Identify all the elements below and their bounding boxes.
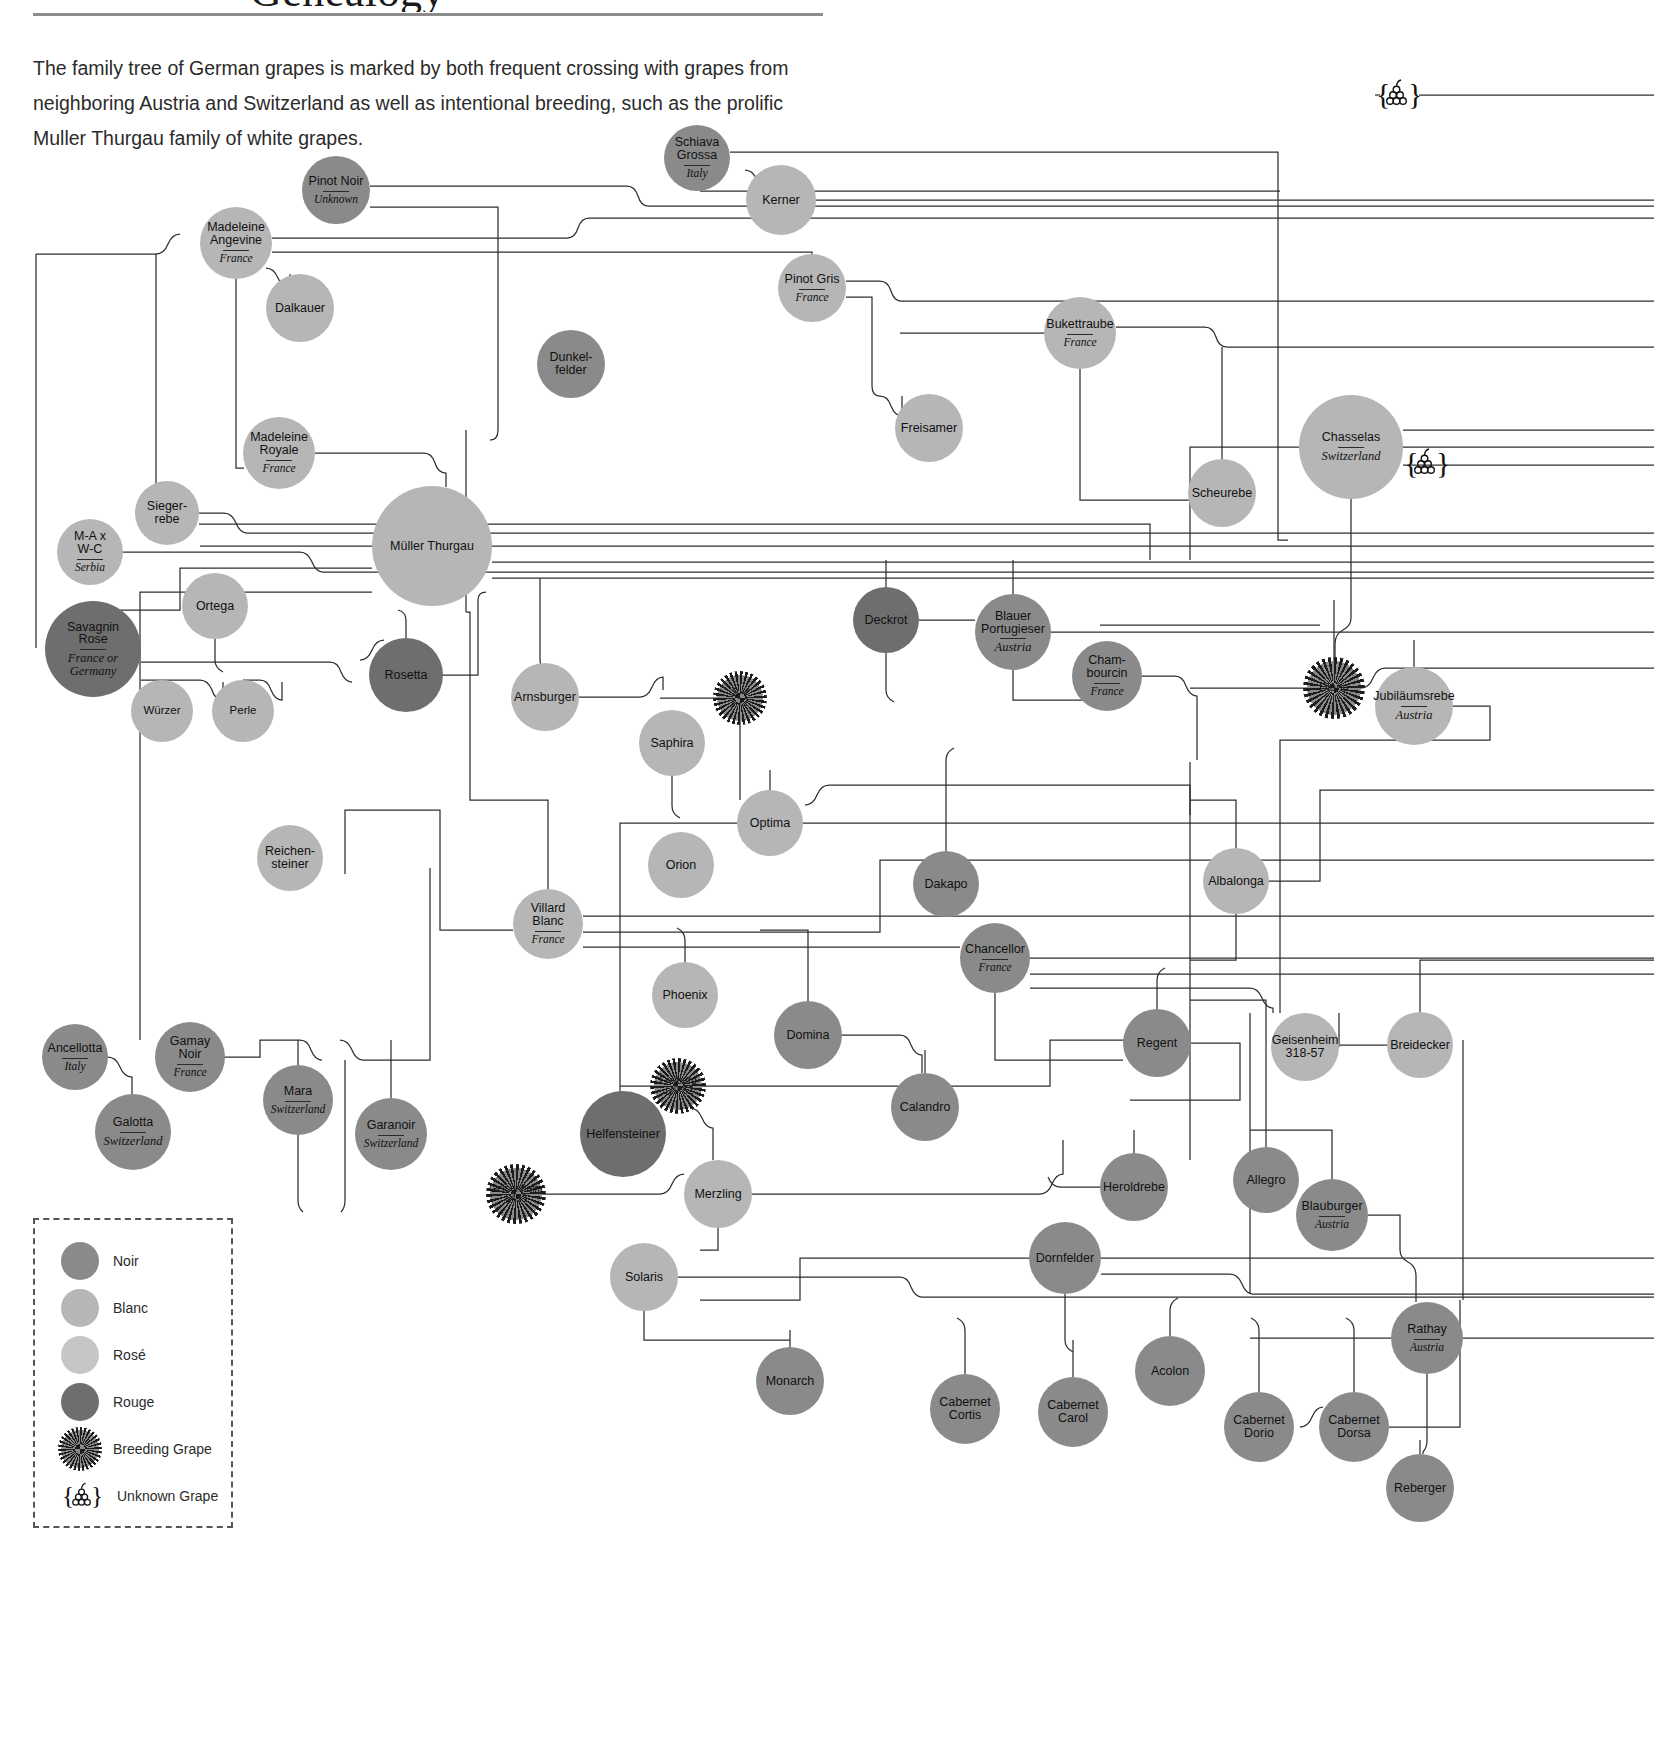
grape-node-freiburg-379-52[interactable]: Freiburg 379-52 (654, 1062, 702, 1110)
grape-node-ma-x-wc[interactable]: M-A x W-CSerbia (57, 519, 123, 585)
grape-node-ortega[interactable]: Ortega (182, 573, 248, 639)
name-origin-divider (77, 559, 103, 560)
grape-node-arnsburger[interactable]: Arnsburger (511, 663, 579, 731)
svg-text:}: } (91, 1481, 103, 1509)
grape-node-dakapo[interactable]: Dakapo (913, 851, 979, 917)
grape-node-garanoir[interactable]: GaranoirSwitzerland (355, 1098, 427, 1170)
grape-name: Arnsburger (510, 691, 580, 704)
grape-node-pinot-noir[interactable]: Pinot NoirUnknown (302, 156, 370, 224)
grape-name: Scheurebe (1188, 487, 1256, 500)
grape-node-scheurebe[interactable]: Scheurebe (1188, 459, 1256, 527)
legend-item-rouge: Rouge (61, 1383, 154, 1421)
grape-node-pinot-gris[interactable]: Pinot GrisFrance (778, 254, 846, 322)
grape-name: Allegro (1243, 1174, 1290, 1187)
grape-node-chancellor[interactable]: ChancellorFrance (960, 923, 1030, 993)
name-origin-divider (1094, 683, 1120, 684)
grape-node-regent[interactable]: Regent (1123, 1009, 1191, 1077)
grape-node-savagnin-rose[interactable]: Savagnin RoseFrance or Germany (45, 601, 141, 697)
grape-node-schiava-grossa[interactable]: Schiava GrossaItaly (664, 125, 730, 191)
grape-node-optima[interactable]: Optima (737, 790, 803, 856)
grape-node-heroldrebe[interactable]: Heroldrebe (1100, 1153, 1168, 1221)
grape-name: Albalonga (1204, 875, 1268, 888)
name-origin-divider (799, 289, 825, 290)
grape-node-kerner[interactable]: Kerner (746, 165, 816, 235)
grape-node-saphira[interactable]: Saphira (639, 710, 705, 776)
grape-node-madeleine-angevine[interactable]: Madeleine AngevineFrance (200, 207, 272, 279)
name-origin-divider (120, 1132, 146, 1133)
grape-node-breidecker[interactable]: Breidecker (1387, 1012, 1453, 1078)
grape-node-villard-blanc[interactable]: Villard BlancFrance (513, 889, 583, 959)
grape-node-geisenheim-6493[interactable]: Geisenheim 6493 (490, 1168, 542, 1220)
grape-name: Kerner (758, 194, 804, 207)
grape-node-reberger[interactable]: Reberger (1386, 1454, 1454, 1522)
grape-node-allegro[interactable]: Allegro (1233, 1147, 1299, 1213)
grape-node-bukettraube[interactable]: BukettraubeFrance (1044, 297, 1116, 369)
grape-node-solaris[interactable]: Solaris (610, 1243, 678, 1311)
grape-node-blauer-portugieser[interactable]: Blauer PortugieserAustria (975, 594, 1051, 670)
grape-node-muller-thurgau[interactable]: Müller Thurgau (372, 486, 492, 606)
svg-text:{: { (1404, 446, 1418, 479)
legend-label: Unknown Grape (117, 1488, 218, 1504)
grape-node-merzling[interactable]: Merzling (684, 1160, 752, 1228)
name-origin-divider (1000, 638, 1026, 639)
grape-node-calandro[interactable]: Calandro (891, 1073, 959, 1141)
grape-node-dunkelfelder[interactable]: Dunkel- felder (537, 330, 605, 398)
grape-node-monarch[interactable]: Monarch (756, 1347, 824, 1415)
grape-node-blauburger[interactable]: BlauburgerAustria (1296, 1179, 1368, 1251)
grape-node-freisamer[interactable]: Freisamer (895, 394, 963, 462)
legend-item-blanc: Blanc (61, 1289, 148, 1327)
grape-node-albalonga[interactable]: Albalonga (1203, 848, 1269, 914)
grape-node-cabernet-carol[interactable]: Cabernet Carol (1038, 1377, 1108, 1447)
grape-node-wurzer[interactable]: Würzer (131, 680, 193, 742)
grape-node-phoenix[interactable]: Phoenix (652, 962, 718, 1028)
grape-node-madeleine-royale[interactable]: Madeleine RoyaleFrance (243, 417, 315, 489)
grape-node-diana[interactable]: Diana (1307, 661, 1361, 715)
grape-node-cabernet-dorio[interactable]: Cabernet Dorio (1224, 1392, 1294, 1462)
grape-node-rathay[interactable]: RathayAustria (1391, 1302, 1463, 1374)
grape-node-cabernet-dorsa[interactable]: Cabernet Dorsa (1319, 1392, 1389, 1462)
grape-node-domina[interactable]: Domina (774, 1001, 842, 1069)
grape-node-dalkauer[interactable]: Dalkauer (266, 274, 334, 342)
grape-node-s-v-i-72[interactable]: S-V I-72 (717, 675, 763, 721)
grape-name: Cabernet Dorsa (1324, 1414, 1383, 1440)
grape-origin: France (217, 253, 254, 265)
grape-name: Chasselas (1318, 431, 1384, 444)
grape-name: Savagnin Rose (63, 621, 123, 647)
grape-node-rosetta[interactable]: Rosetta (369, 638, 443, 712)
grape-name: Breidecker (1386, 1039, 1454, 1052)
grape-node-orion[interactable]: Orion (648, 832, 714, 898)
grape-name: Blauburger (1297, 1200, 1366, 1213)
grape-node-siegerrebe[interactable]: Sieger- rebe (135, 481, 199, 545)
grape-node-galotta[interactable]: GalottaSwitzerland (95, 1094, 171, 1170)
grape-origin: France (529, 934, 566, 946)
grape-node-mara[interactable]: MaraSwitzerland (263, 1065, 333, 1135)
grape-node-cabernet-cortis[interactable]: Cabernet Cortis (930, 1374, 1000, 1444)
grape-name: Diana (1315, 682, 1353, 694)
grape-name: Müller Thurgau (386, 540, 478, 553)
grape-name: Gamay Noir (155, 1035, 225, 1061)
grape-node-perle[interactable]: Perle (212, 680, 274, 742)
grape-node-geisenheim-318-57[interactable]: Geisenheim 318-57 (1271, 1013, 1339, 1081)
grape-node-deckrot[interactable]: Deckrot (853, 587, 919, 653)
grape-node-helfensteiner[interactable]: Helfensteiner (580, 1091, 666, 1177)
grape-node-acolon[interactable]: Acolon (1135, 1336, 1205, 1406)
grape-node-chambourcin[interactable]: Cham- bourcinFrance (1072, 641, 1142, 711)
grape-node-chasselas[interactable]: ChasselasSwitzerland (1299, 395, 1403, 499)
grape-name: Monarch (762, 1375, 819, 1388)
unknown-grape-icon: { } (1402, 441, 1448, 487)
grape-node-ancellotta[interactable]: AncellottaItaly (42, 1024, 108, 1090)
grape-name: Cabernet Cortis (935, 1396, 994, 1422)
legend-item-noir: Noir (61, 1242, 139, 1280)
grape-name: Garanoir (363, 1119, 420, 1132)
grape-node-gamay-noir[interactable]: Gamay NoirFrance (155, 1022, 225, 1092)
grape-node-reichensteiner[interactable]: Reichen- steiner (257, 825, 323, 891)
legend-label: Rosé (113, 1347, 146, 1363)
grape-node-jubilaumsrebe[interactable]: JubiläumsrebeAustria (1375, 667, 1453, 745)
name-origin-divider (285, 1101, 311, 1102)
grape-name: Merzling (690, 1188, 745, 1201)
legend-swatch-rouge (61, 1383, 99, 1421)
grape-name: Freisamer (897, 422, 961, 435)
grape-origin: France (1061, 337, 1098, 349)
grape-node-dornfelder[interactable]: Dornfelder (1029, 1222, 1101, 1294)
unknown-grape-icon: { } (1374, 72, 1420, 118)
